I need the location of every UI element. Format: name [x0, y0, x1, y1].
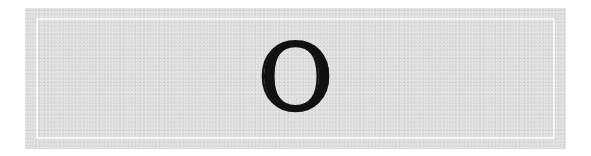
textured-banner-panel: O [25, 8, 566, 149]
initial-letter: O [25, 33, 566, 125]
